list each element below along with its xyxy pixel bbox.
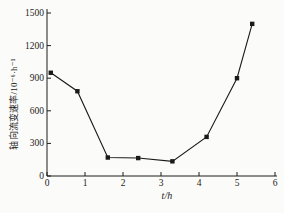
y-tick-label: 1500 <box>25 8 44 18</box>
x-tick-label: 6 <box>273 178 278 188</box>
y-tick-label: 1200 <box>25 41 44 51</box>
x-axis-label: t/h <box>161 190 172 201</box>
data-point-marker <box>75 89 79 93</box>
data-series-line <box>51 24 252 161</box>
x-tick-label: 2 <box>121 178 126 188</box>
y-tick-label: 0 <box>39 171 44 181</box>
data-point-marker <box>235 76 239 80</box>
creep-rate-line-chart: 0123456030060090012001500 t/h 轴向流变速率/10⁻… <box>0 0 284 213</box>
data-point-marker <box>49 71 53 75</box>
chart-canvas: 0123456030060090012001500 <box>0 0 284 213</box>
x-tick-label: 5 <box>235 178 240 188</box>
y-tick-label: 300 <box>30 138 45 148</box>
x-tick-label: 1 <box>83 178 88 188</box>
data-point-marker <box>106 155 110 159</box>
x-tick-label: 4 <box>197 178 202 188</box>
y-tick-label: 900 <box>30 73 45 83</box>
data-point-marker <box>204 135 208 139</box>
x-tick-label: 0 <box>45 178 50 188</box>
data-point-marker <box>250 22 254 26</box>
data-point-marker <box>170 159 174 163</box>
data-point-marker <box>136 156 140 160</box>
y-tick-label: 600 <box>30 106 45 116</box>
y-axis-label: 轴向流变速率/10⁻⁶·h⁻¹ <box>7 58 20 149</box>
x-tick-label: 3 <box>159 178 164 188</box>
